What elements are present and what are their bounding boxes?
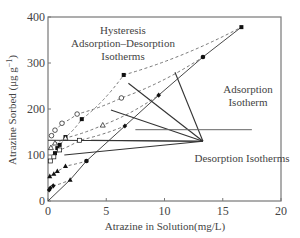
x-tick-label: 0	[45, 204, 51, 218]
data-point	[100, 123, 105, 128]
annotation-desorption-text: Desorption Isotherms	[194, 152, 289, 164]
data-point	[122, 73, 126, 77]
annotation-hysteresis-text: Isotherms	[101, 50, 144, 62]
data-markers	[47, 25, 244, 192]
desorption-leader-line	[48, 140, 203, 141]
y-tick-label: 200	[27, 102, 45, 116]
x-tick-label: 5	[103, 204, 109, 218]
y-axis-label-sup: −1	[5, 59, 14, 68]
x-tick-label: 10	[159, 204, 171, 218]
y-tick-label: 300	[27, 56, 45, 70]
data-point	[53, 128, 58, 133]
data-point	[77, 138, 81, 142]
y-axis-label-main: Atrazine Sorbed (μg g	[6, 67, 19, 165]
adsorption-point	[239, 25, 243, 29]
data-point	[80, 117, 84, 121]
annotation-hysteresis-text: Hysteresis	[100, 24, 146, 36]
desorption-leader-line	[64, 141, 203, 155]
sorption-chart: 05101520 0100200300400 HysteresisAdsorpt…	[0, 0, 300, 238]
data-point	[52, 155, 56, 159]
data-point	[58, 148, 62, 152]
y-axis-label: Atrazine Sorbed (μg g−1)	[5, 55, 19, 165]
y-tick-label: 100	[27, 148, 45, 162]
data-point	[63, 163, 68, 168]
data-point	[60, 121, 65, 126]
y-axis-label-close: )	[6, 55, 19, 59]
data-point	[58, 143, 62, 147]
x-axis-label: Atrazine in Solution(mg/L)	[105, 220, 226, 233]
desorption-curve-5	[50, 161, 87, 176]
data-point	[75, 112, 80, 117]
x-tick-label: 20	[275, 204, 287, 218]
annotation-adsorption-text: Adsorption	[223, 83, 273, 95]
y-tick-label: 0	[39, 194, 45, 208]
annotation-adsorption-text: Isotherm	[228, 96, 268, 108]
y-tick-label: 400	[27, 10, 45, 24]
data-point	[49, 133, 54, 138]
data-point	[48, 159, 52, 163]
data-point	[55, 169, 60, 174]
annotation-hysteresis-text: Adsorption–Desorption	[71, 37, 175, 49]
adsorption-point	[84, 159, 89, 164]
x-tick-label: 15	[217, 204, 229, 218]
data-point	[119, 96, 124, 101]
adsorption-point	[201, 55, 206, 60]
